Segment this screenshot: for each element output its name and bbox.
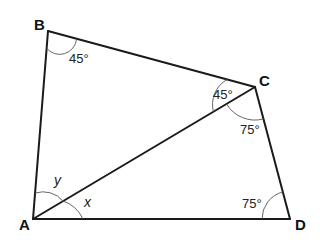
angle-label-acd: 75° bbox=[240, 122, 260, 137]
vertex-label-a: A bbox=[19, 216, 30, 233]
angle-label-y: y bbox=[53, 172, 62, 188]
angle-arc-x bbox=[62, 201, 83, 219]
angle-label-b: 45° bbox=[69, 51, 89, 66]
vertex-label-c: C bbox=[259, 72, 270, 89]
angle-arc-d bbox=[262, 192, 283, 219]
vertex-label-b: B bbox=[34, 16, 45, 33]
angle-arc-acd bbox=[227, 104, 264, 120]
edge-ab bbox=[33, 31, 48, 219]
angle-label-acb: 45° bbox=[213, 87, 233, 102]
geometry-diagram: B C D A 45° 45° 75° 75° y x bbox=[0, 0, 320, 240]
angle-arc-y bbox=[35, 192, 63, 201]
vertex-label-d: D bbox=[295, 216, 306, 233]
angle-label-d: 75° bbox=[242, 196, 262, 211]
diagonal-ac bbox=[33, 87, 255, 219]
angle-label-x: x bbox=[83, 194, 92, 210]
